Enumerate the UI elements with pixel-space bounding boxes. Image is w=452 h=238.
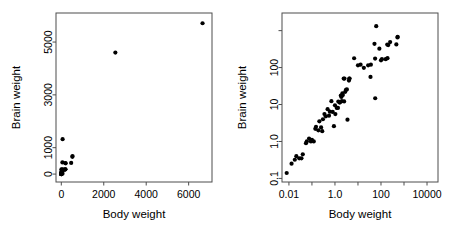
data-point (394, 42, 398, 46)
y-axis-tick-label: 100 (268, 59, 280, 77)
y-axis-tick-label: 0 (42, 171, 54, 177)
data-point (329, 99, 333, 103)
data-point (345, 87, 349, 91)
log-scatter-plot: 0.011.0100100000.11.010100Body weightBra… (226, 0, 452, 238)
data-point (69, 161, 73, 165)
y-axis-tick-label: 1000 (42, 136, 54, 160)
data-point (317, 119, 321, 123)
y-axis-tick-label: 1.0 (268, 134, 280, 149)
data-point (200, 21, 204, 25)
data-point (380, 57, 384, 61)
data-point (285, 171, 289, 175)
data-point (347, 76, 351, 80)
x-axis-title: Body weight (329, 208, 392, 220)
data-point (61, 137, 65, 141)
data-point (70, 154, 74, 158)
data-point (373, 96, 377, 100)
x-axis-tick-label: 1.0 (328, 188, 343, 200)
linear-scatter-plot: 02000400060000100030005000Body weightBra… (0, 0, 226, 238)
data-point (342, 76, 346, 80)
x-axis-tick-label: 2000 (92, 188, 116, 200)
data-point (289, 162, 293, 166)
plot-frame (56, 13, 212, 182)
data-point (333, 112, 337, 116)
y-axis-tick-label: 5000 (42, 30, 54, 54)
data-point (314, 125, 318, 129)
data-point (301, 152, 305, 156)
data-point (362, 66, 366, 70)
data-point (299, 156, 303, 160)
data-point (319, 125, 323, 129)
x-axis-tick-label: 10000 (412, 188, 441, 200)
x-axis-tick-label: 6000 (177, 188, 201, 200)
data-point (63, 168, 67, 172)
data-point (60, 160, 64, 164)
data-point (345, 118, 349, 122)
data-point (59, 171, 63, 175)
scatter-panel-linear: 02000400060000100030005000Body weightBra… (0, 0, 226, 238)
y-axis-tick-label: 10 (268, 99, 280, 111)
data-point (342, 99, 346, 103)
data-point (396, 35, 400, 39)
x-axis-tick-label: 0.01 (279, 188, 300, 200)
data-point (374, 24, 378, 28)
data-point (336, 106, 340, 110)
scatter-panel-log: 0.011.0100100000.11.010100Body weightBra… (226, 0, 452, 238)
x-axis-tick-label: 100 (372, 188, 390, 200)
data-point (320, 129, 324, 133)
data-point (359, 63, 363, 67)
data-point (327, 114, 331, 118)
data-point (385, 56, 389, 60)
data-point (373, 57, 377, 61)
data-point (372, 42, 376, 46)
data-point (113, 50, 117, 54)
data-points-group (59, 21, 204, 176)
data-point (312, 139, 316, 143)
y-axis-tick-label: 0.1 (268, 171, 280, 186)
y-axis-tick-label: 3000 (42, 83, 54, 107)
data-point (377, 47, 381, 51)
data-point (369, 63, 373, 67)
y-axis-title: Brain weight (10, 65, 22, 129)
data-point (388, 40, 392, 44)
plot-frame (282, 13, 438, 182)
x-axis-tick-label: 4000 (135, 188, 159, 200)
figure-container: 02000400060000100030005000Body weightBra… (0, 0, 452, 238)
data-point (368, 75, 372, 79)
data-point (293, 158, 297, 162)
x-axis-title: Body weight (103, 208, 166, 220)
data-point (332, 124, 336, 128)
y-axis-title: Brain weight (236, 65, 248, 129)
data-points-group (285, 24, 400, 175)
x-axis-tick-label: 0 (58, 188, 64, 200)
data-point (352, 56, 356, 60)
